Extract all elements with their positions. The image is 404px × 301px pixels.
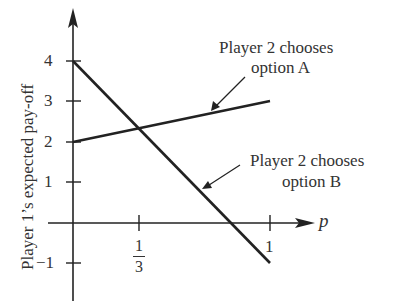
annotation-a-line2: option A xyxy=(251,58,310,78)
annotation-b-arrowhead-icon xyxy=(202,181,212,189)
frac-denominator: 3 xyxy=(135,258,143,275)
series-option-b-line xyxy=(73,61,270,263)
annotation-b-arrow xyxy=(206,165,240,187)
frac-bar xyxy=(133,256,145,257)
series-option-a-line xyxy=(73,101,270,142)
y-tick-label-neg1: −1 xyxy=(36,254,54,272)
y-tick-label-1: 1 xyxy=(44,173,53,191)
y-axis-label: Player 1’s expected pay-off xyxy=(18,84,38,270)
annotation-a-line1: Player 2 chooses xyxy=(219,38,333,58)
x-tick-label-one-third: 1 3 xyxy=(132,238,146,275)
y-tick-label-2: 2 xyxy=(44,133,53,151)
annotation-b-line1: Player 2 chooses xyxy=(250,151,364,171)
y-tick-label-4: 4 xyxy=(44,52,53,70)
annotation-b-line2: option B xyxy=(282,172,341,192)
x-axis-label: p xyxy=(319,211,329,231)
annotation-a-arrow xyxy=(214,77,245,108)
annotation-a-arrowhead-icon xyxy=(211,101,220,111)
x-tick-label-1: 1 xyxy=(265,238,274,256)
y-tick-label-3: 3 xyxy=(44,92,53,110)
frac-numerator: 1 xyxy=(135,237,143,254)
